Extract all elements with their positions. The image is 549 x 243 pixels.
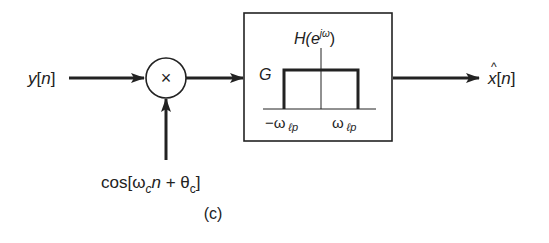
multiplier-node: × xyxy=(146,58,186,98)
filter-title: H(ejω) xyxy=(294,28,335,47)
input-signal-label: y[n] xyxy=(27,69,55,88)
svg-text:x[n]: x[n] xyxy=(487,69,515,88)
gain-label: G xyxy=(259,66,271,83)
lowpass-filter-block: H(ejω) G −ωℓp ωℓp xyxy=(244,13,392,141)
figure-caption: (c) xyxy=(204,205,223,222)
carrier-label: cos[ωcn + θc] xyxy=(101,173,201,196)
multiply-icon: × xyxy=(161,68,172,88)
output-signal-label: ^ x[n] xyxy=(487,60,515,88)
demodulator-block-diagram: y[n] × cos[ωcn + θc] (c) H(ejω) G −ωℓp ω… xyxy=(0,0,549,243)
